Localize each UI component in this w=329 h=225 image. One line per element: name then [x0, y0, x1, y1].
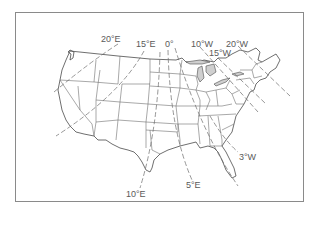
label-5e: 5°E — [186, 180, 201, 190]
label-0: 0° — [165, 39, 174, 49]
label-3w: 3°W — [239, 152, 257, 162]
label-20e: 20°E — [101, 34, 121, 44]
label-10e: 10°E — [126, 189, 146, 199]
label-15e: 15°E — [136, 39, 156, 49]
label-15w: 15°W — [209, 48, 232, 58]
isogonic-labels: 20°E 15°E 0° 10°W 20°W 15°W 10°E 5°E 3°W — [0, 0, 329, 225]
